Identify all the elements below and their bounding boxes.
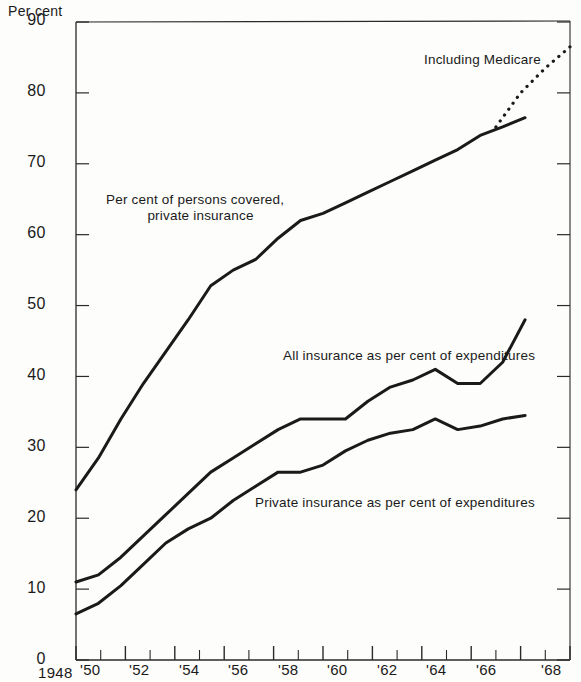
series-line-1 <box>496 47 570 127</box>
series-line-3 <box>76 415 525 613</box>
series-line-0 <box>76 118 525 490</box>
data-series-layer <box>76 47 570 614</box>
x-axis-ticks <box>76 646 570 660</box>
axis-frame <box>76 21 570 660</box>
y-axis-ticks <box>76 22 570 660</box>
plot-area <box>0 0 581 682</box>
series-line-2 <box>76 320 525 582</box>
chart-container: Per cent 90 80 70 60 50 40 30 20 10 0 19… <box>0 0 581 682</box>
